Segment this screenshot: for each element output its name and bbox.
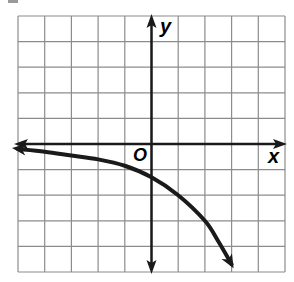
axes <box>14 14 287 274</box>
origin-label: O <box>133 145 147 165</box>
graph-figure: y x O <box>0 0 294 282</box>
y-axis-label: y <box>159 15 172 37</box>
x-axis-label: x <box>267 145 280 167</box>
cropped-label-fragment <box>8 0 18 3</box>
coordinate-plane: y x O <box>0 0 294 282</box>
